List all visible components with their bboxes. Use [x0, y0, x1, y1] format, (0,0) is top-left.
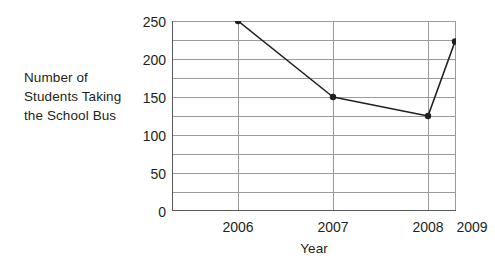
- data-series-line: [238, 21, 455, 116]
- plot-canvas: [172, 21, 456, 211]
- y-axis-tick-labels: 250 200 150 100 50 0: [122, 0, 166, 274]
- x-tick-label-2007: 2007: [303, 219, 363, 235]
- line-chart-figure: Number of Students Taking the School Bus…: [0, 0, 495, 274]
- y-tick-label-100: 100: [124, 129, 166, 143]
- x-tick-label-2006: 2006: [208, 219, 268, 235]
- data-point-2007: [330, 94, 336, 100]
- y-tick-label-200: 200: [124, 53, 166, 67]
- x-axis-title: Year: [172, 241, 456, 256]
- y-tick-label-150: 150: [124, 91, 166, 105]
- y-tick-label-50: 50: [124, 167, 166, 181]
- data-point-2009: [452, 38, 456, 44]
- y-tick-label-250: 250: [124, 15, 166, 29]
- y-tick-label-0: 0: [124, 205, 166, 219]
- horizontal-gridlines: [172, 22, 456, 193]
- data-point-2008: [425, 113, 431, 119]
- data-point-markers: [235, 21, 456, 119]
- x-axis-tick-labels: 2006 2007 2008 2009: [172, 219, 456, 239]
- plot-area: [172, 21, 456, 211]
- x-tick-label-2009: 2009: [442, 219, 495, 235]
